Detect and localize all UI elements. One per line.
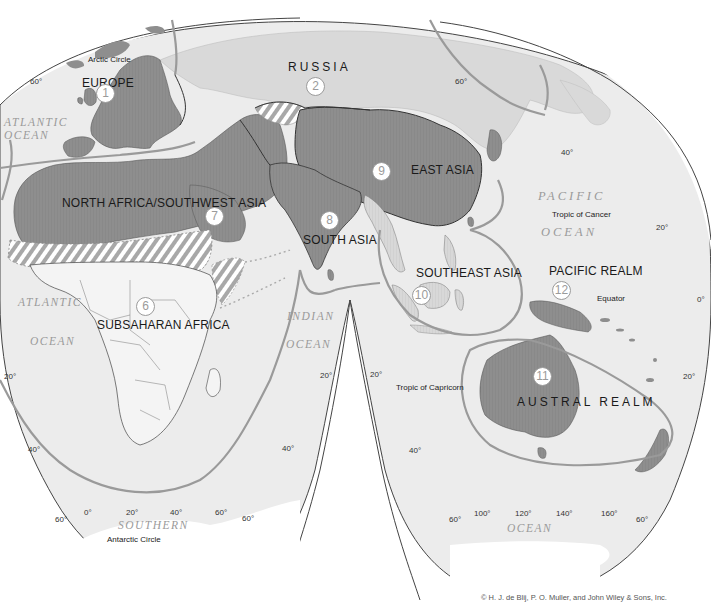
lat-label-w-60: 60°	[55, 515, 67, 524]
lat-label-mid-left-20: 20°	[320, 371, 332, 380]
ocean-label-pacific-2: OCEAN	[541, 225, 597, 240]
realm-label-russia: RUSSIA	[288, 60, 351, 74]
label-tropic-of-cancer: Tropic of Cancer	[552, 210, 611, 219]
copyright-notice: © H. J. de Blij, P. O. Muller, and John …	[481, 593, 667, 602]
realm-number-7: 7	[205, 207, 224, 226]
realm-label-southeast-asia: SOUTHEAST ASIA	[416, 266, 522, 280]
lon-label-0: 0°	[84, 508, 92, 517]
lat-label-w-20: 20°	[4, 372, 16, 381]
label-equator: Equator	[597, 294, 625, 303]
lat-label-w-40: 40°	[28, 445, 40, 454]
label-tropic-of-capricorn: Tropic of Capricorn	[396, 383, 464, 392]
lat-label-mid-left-60: 60°	[242, 514, 254, 523]
lon-label-160: 160°	[601, 509, 618, 518]
ocean-label-pacific-1: PACIFIC	[538, 189, 605, 204]
ocean-label-indian-1: INDIAN	[287, 310, 334, 322]
lat-label-mid-right-60: 60°	[449, 515, 461, 524]
antarctica-east	[450, 541, 609, 600]
taiwan	[468, 217, 474, 226]
lat-label-mid-right-20: 20°	[370, 370, 382, 379]
lon-label-120: 120°	[515, 509, 532, 518]
realm-number-9: 9	[372, 162, 391, 181]
realm-label-austral-realm: AUSTRAL REALM	[517, 395, 656, 409]
lat-label-e-20n: 20°	[656, 223, 668, 232]
lat-label-mid-left-40: 40°	[282, 444, 294, 453]
ocean-label-atlantic-south-1: ATLANTIC	[18, 296, 82, 308]
label-arctic-circle: Arctic Circle	[88, 55, 131, 64]
realm-label-south-asia: SOUTH ASIA	[303, 233, 377, 247]
realm-number-11: 11	[533, 367, 552, 386]
realm-number-6: 6	[136, 297, 155, 316]
ocean-label-southern-1: SOUTHERN	[118, 519, 189, 531]
ocean-label-southern-2: OCEAN	[507, 522, 552, 534]
realm-label-north-africa-southwest-asia: NORTH AFRICA/SOUTHWEST ASIA	[62, 196, 266, 210]
lat-label-ne-60: 60°	[455, 77, 467, 86]
realm-number-10: 10	[412, 286, 431, 305]
lat-label-e-20s: 20°	[683, 372, 695, 381]
ocean-label-indian-2: OCEAN	[286, 338, 331, 350]
label-antarctic-circle: Antarctic Circle	[107, 535, 161, 544]
realm-label-east-asia: EAST ASIA	[411, 163, 474, 177]
realm-number-2: 2	[306, 77, 325, 96]
lat-label-e-0: 0°	[697, 295, 705, 304]
ocean-label-atlantic-north-2: OCEAN	[4, 129, 49, 141]
realm-number-1: 1	[96, 84, 115, 103]
lat-label-e-60s: 60°	[636, 515, 648, 524]
realm-label-pacific-realm: PACIFIC REALM	[549, 264, 643, 278]
lon-label-100: 100°	[474, 509, 491, 518]
realm-label-subsaharan-africa: SUBSAHARAN AFRICA	[97, 318, 230, 332]
lon-label-140: 140°	[556, 509, 573, 518]
lon-label-60: 60°	[215, 508, 227, 517]
lat-label-e-40: 40°	[561, 148, 573, 157]
lon-label-20: 20°	[126, 508, 138, 517]
lat-label-mid-right-40: 40°	[409, 446, 421, 455]
lon-label-40: 40°	[170, 508, 182, 517]
realm-number-8: 8	[320, 211, 339, 230]
ocean-label-atlantic-south-2: OCEAN	[30, 335, 75, 347]
realm-number-12: 12	[552, 281, 571, 300]
lat-label-nw-60: 60°	[30, 77, 42, 86]
ocean-label-atlantic-north-1: ATLANTIC	[4, 116, 68, 128]
